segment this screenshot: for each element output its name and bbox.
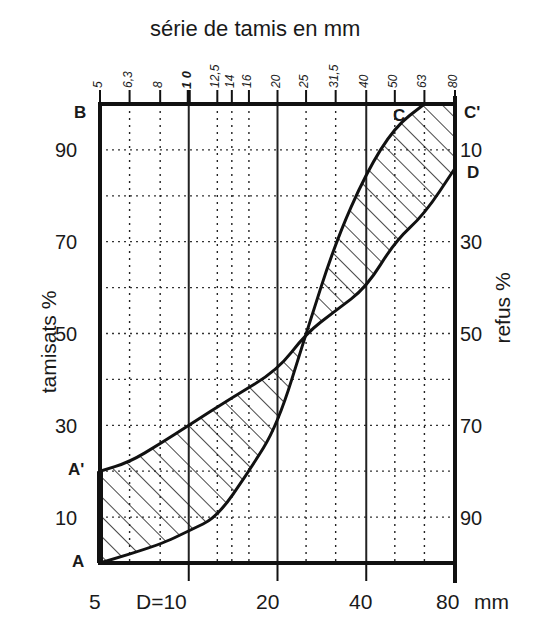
left-tick-50: 50	[55, 323, 77, 346]
point-a: A	[72, 552, 84, 572]
bottom-tick-5: 5	[89, 590, 101, 614]
right-axis-title: refus %	[491, 253, 515, 363]
right-tick-50: 50	[460, 323, 482, 346]
right-tick-30: 30	[460, 231, 482, 254]
bottom-tick-20: 20	[256, 590, 279, 614]
chart-title: série de tamis en mm	[150, 16, 360, 42]
top-tick-5: 5	[91, 81, 105, 88]
top-tick-16: 16	[240, 75, 254, 88]
top-tick-20: 20	[269, 75, 283, 88]
top-tick-31-5: 31,5	[327, 65, 341, 88]
point-b: B	[74, 103, 86, 123]
right-tick-90: 90	[460, 507, 482, 530]
right-tick-10: 10	[460, 139, 482, 162]
point-a-prime: A'	[68, 460, 84, 480]
top-tick-40: 40	[357, 75, 371, 88]
top-tick-8: 8	[151, 81, 165, 88]
bottom-tick-40: 40	[349, 590, 372, 614]
top-tick-10: 1 0	[179, 71, 194, 89]
left-tick-90: 90	[55, 139, 77, 162]
left-tick-70: 70	[55, 231, 77, 254]
point-c: C	[393, 106, 405, 126]
right-tick-70: 70	[460, 415, 482, 438]
top-tick-80: 80	[446, 75, 460, 88]
top-tick-14: 14	[223, 75, 237, 88]
left-tick-10: 10	[55, 507, 77, 530]
top-tick-63: 63	[415, 75, 429, 88]
top-tick-12-5: 12,5	[208, 65, 222, 88]
top-tick-25: 25	[297, 75, 311, 88]
bottom-tick-d10: D=10	[136, 590, 187, 614]
top-tick-6-3: 6,3	[121, 71, 135, 88]
top-tick-50: 50	[386, 75, 400, 88]
bottom-tick-80: 80	[436, 590, 459, 614]
bottom-unit-mm: mm	[474, 590, 509, 614]
point-c-prime: C'	[464, 103, 480, 123]
left-tick-30: 30	[55, 415, 77, 438]
point-d: D	[467, 163, 479, 183]
grading-chart	[0, 0, 548, 627]
